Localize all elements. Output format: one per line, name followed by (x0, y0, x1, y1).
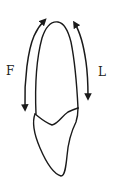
tooth-diagram-svg (0, 0, 115, 178)
facial-arrow (25, 21, 44, 108)
lingual-label: L (98, 66, 106, 78)
tooth-outline (34, 22, 78, 176)
facial-label: F (6, 65, 14, 77)
root-outline (36, 22, 78, 114)
tooth-diagram: F L (0, 0, 115, 178)
cervical-line (35, 108, 78, 125)
